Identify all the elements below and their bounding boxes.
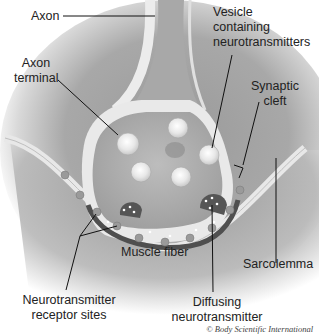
label-receptor-sites: Neurotransmitter receptor sites (14, 293, 124, 323)
label-diffusing-line1: Diffusing (167, 295, 267, 310)
label-vesicle-line2: containing (213, 20, 310, 35)
label-axon-terminal-line2: terminal (14, 71, 58, 86)
label-vesicle-line1: Vesicle (213, 5, 310, 20)
label-receptor-line2: receptor sites (14, 308, 124, 323)
label-synaptic-cleft-line1: Synaptic (240, 79, 310, 94)
copyright-credit: © Body Scientific International (206, 324, 313, 334)
label-axon: Axon (31, 9, 60, 24)
label-vesicle: Vesicle containing neurotransmitters (213, 5, 310, 50)
label-vesicle-line3: neurotransmitters (213, 35, 310, 50)
label-synaptic-cleft: Synaptic cleft (240, 79, 310, 109)
label-axon-terminal: Axon terminal (14, 56, 58, 86)
label-synaptic-cleft-line2: cleft (240, 94, 310, 109)
label-sarcolemma: Sarcolemma (243, 257, 313, 272)
label-axon-terminal-line1: Axon (14, 56, 58, 71)
neuromuscular-junction-illustration (0, 0, 319, 336)
label-muscle-fiber: Muscle fiber (121, 245, 188, 260)
label-diffusing-line2: neurotransmitter (167, 310, 267, 325)
label-receptor-line1: Neurotransmitter (14, 293, 124, 308)
label-diffusing-neurotransmitter: Diffusing neurotransmitter (167, 295, 267, 325)
